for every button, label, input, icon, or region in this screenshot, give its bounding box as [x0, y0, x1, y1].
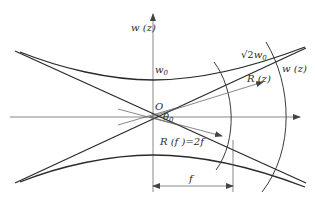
Rf-arrow — [150, 117, 222, 136]
w0-label: w0 — [155, 64, 169, 77]
beam-envelope-lower — [20, 155, 305, 187]
f-dimension-label: f — [188, 173, 195, 184]
w-axis-label: w (z) — [131, 22, 156, 33]
w-z-right-label: w (z) — [282, 63, 307, 74]
gaussian-beam-diagram: w (z) w0 √2w0 w (z) R (z) O θ0 R (f )=2f… — [0, 0, 315, 204]
R-f-label: R (f )=2f — [159, 136, 206, 147]
sqrt2-w0-label: √2w0 — [241, 49, 267, 62]
R-z-label: R (z) — [246, 73, 271, 84]
origin-label: O — [155, 101, 163, 112]
theta0-label: θ0 — [163, 111, 174, 124]
wavefront-arc-f — [214, 62, 231, 170]
